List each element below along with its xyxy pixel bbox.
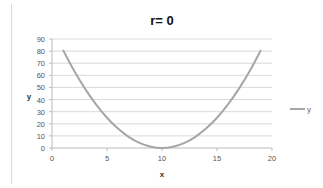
chart-title: r= 0 <box>150 13 174 28</box>
y-tick-label: 90 <box>37 35 45 44</box>
x-tick-label: 20 <box>268 154 276 163</box>
x-axis-label: x <box>160 170 165 179</box>
y-tick-label: 40 <box>37 96 45 105</box>
y-tick-label: 10 <box>37 132 45 141</box>
chart: r= 0 0102030405060708090 05101520 y x y <box>0 0 323 188</box>
y-tick-label: 20 <box>37 120 45 129</box>
x-axis-ticks: 05101520 <box>50 148 276 163</box>
x-tick-label: 5 <box>105 154 109 163</box>
y-axis-ticks: 0102030405060708090 <box>37 35 52 153</box>
y-tick-label: 30 <box>37 108 45 117</box>
x-tick-label: 15 <box>213 154 221 163</box>
y-tick-label: 80 <box>37 47 45 56</box>
y-tick-label: 70 <box>37 59 45 68</box>
y-axis-label: y <box>27 92 32 101</box>
x-tick-label: 10 <box>158 154 166 163</box>
legend: y <box>290 105 311 114</box>
series-y-line <box>63 50 261 148</box>
y-tick-label: 0 <box>41 144 45 153</box>
x-tick-label: 0 <box>50 154 54 163</box>
legend-label: y <box>307 105 311 114</box>
y-tick-label: 60 <box>37 71 45 80</box>
y-tick-label: 50 <box>37 83 45 92</box>
